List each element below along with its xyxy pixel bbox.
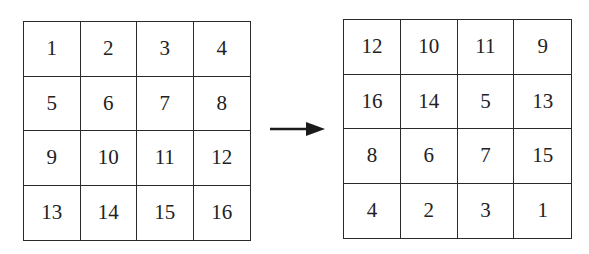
grid-cell: 12: [344, 20, 401, 75]
grid-cell: 2: [81, 22, 138, 77]
grid-cell: 3: [137, 22, 194, 77]
grid-cell: 3: [458, 184, 515, 239]
grid-cell: 15: [514, 129, 571, 184]
permuted-grid: 12101191614513867154231: [343, 19, 572, 239]
grid-cell: 5: [24, 77, 81, 132]
grid-cell: 5: [458, 75, 515, 130]
grid-cell: 9: [514, 20, 571, 75]
grid-cell: 14: [81, 186, 138, 241]
grid-cell: 10: [81, 131, 138, 186]
grid-cell: 7: [137, 77, 194, 132]
grid-cell: 1: [24, 22, 81, 77]
grid-cell: 16: [194, 186, 251, 241]
grid-cell: 4: [344, 184, 401, 239]
grid-cell: 13: [514, 75, 571, 130]
grid-cell: 7: [458, 129, 515, 184]
grid-cell: 16: [344, 75, 401, 130]
right-arrow-icon: [268, 120, 328, 138]
grid-cell: 13: [24, 186, 81, 241]
grid-cell: 12: [194, 131, 251, 186]
grid-cell: 4: [194, 22, 251, 77]
grid-cell: 10: [401, 20, 458, 75]
grid-cell: 11: [137, 131, 194, 186]
grid-cell: 1: [514, 184, 571, 239]
grid-cell: 6: [81, 77, 138, 132]
grid-cell: 9: [24, 131, 81, 186]
grid-cell: 14: [401, 75, 458, 130]
grid-cell: 6: [401, 129, 458, 184]
grid-cell: 8: [344, 129, 401, 184]
grid-cell: 8: [194, 77, 251, 132]
grid-cell: 11: [458, 20, 515, 75]
grid-cell: 2: [401, 184, 458, 239]
original-grid: 12345678910111213141516: [23, 21, 251, 241]
grid-cell: 15: [137, 186, 194, 241]
